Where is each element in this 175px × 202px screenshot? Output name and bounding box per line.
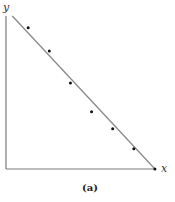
data-point-1 — [27, 26, 30, 29]
chart: y x (a) — [0, 0, 175, 202]
figure-caption: (a) — [82, 182, 98, 193]
data-point-4 — [90, 110, 93, 113]
data-point-3 — [69, 81, 72, 84]
y-axis-label: y — [2, 1, 10, 14]
data-point-6 — [132, 147, 135, 150]
x-axis-label: x — [161, 162, 168, 175]
data-point-7 — [153, 168, 156, 171]
data-point-2 — [48, 50, 51, 53]
data-point-5 — [111, 127, 114, 130]
fit-line — [12, 16, 155, 169]
